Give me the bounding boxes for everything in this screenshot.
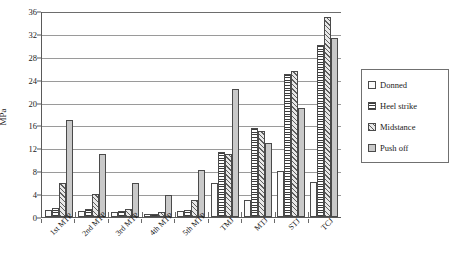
legend-label: Donned [380, 80, 407, 90]
x-axis-tick-mark [308, 219, 309, 223]
y-axis-tick-label: 12 [29, 144, 38, 154]
x-axis-tick-label: TMJ [219, 216, 236, 233]
x-axis-label-cell: TCJ [308, 219, 341, 266]
bar [265, 143, 272, 217]
x-axis-tick-mark [241, 219, 242, 223]
x-axis-tick-mark [41, 219, 42, 223]
bar-group [241, 12, 274, 217]
x-axis-tick-mark [208, 219, 209, 223]
bar [198, 170, 205, 217]
y-axis-tick-label: 16 [29, 121, 38, 131]
plot-area [41, 12, 341, 218]
legend-item: Midstance [368, 122, 448, 132]
legend-item: Donned [368, 80, 448, 90]
y-axis-tick-label: 20 [29, 99, 38, 109]
bar-group [42, 12, 75, 217]
bar [144, 214, 151, 217]
legend-label: Midstance [380, 122, 415, 132]
legend-swatch-icon [368, 144, 376, 152]
bar-group [175, 12, 208, 217]
bar [111, 212, 118, 217]
bar [211, 183, 218, 217]
x-axis-label-cell: 5th MTP [174, 219, 207, 266]
y-axis: 04812162024283236 [0, 0, 41, 219]
bar-chart: MPa 04812162024283236 1st MTP2nd MTP3rd … [0, 0, 457, 266]
bar-group [208, 12, 241, 217]
x-axis-label-cell: 2nd MTP [74, 219, 107, 266]
bar [99, 154, 106, 217]
x-axis-label-cell: TMJ [208, 219, 241, 266]
y-axis-tick-label: 32 [29, 30, 38, 40]
x-axis-labels: 1st MTP2nd MTP3rd MTP4th MTP5th MTPTMJMT… [41, 219, 341, 266]
x-axis-tick-mark [174, 219, 175, 223]
x-axis-label-cell: 4th MTP [141, 219, 174, 266]
bar [218, 152, 225, 217]
bar [45, 210, 52, 217]
x-axis-tick-label: TCJ [320, 216, 336, 232]
bar [151, 214, 158, 217]
y-axis-tick-label: 24 [29, 76, 38, 86]
bar [251, 128, 258, 217]
x-axis-tick-label: STJ [287, 217, 302, 232]
bar [277, 171, 284, 217]
x-axis-label-cell: MTJ [241, 219, 274, 266]
legend-item: Push off [368, 143, 448, 153]
bar-groups [42, 12, 341, 217]
bar [298, 108, 305, 217]
x-axis-tick-mark [74, 219, 75, 223]
bar-group [275, 12, 308, 217]
bar-group [108, 12, 141, 217]
bar-group [142, 12, 175, 217]
bar [177, 211, 184, 217]
bar-group [308, 12, 341, 217]
legend-swatch-icon [368, 81, 376, 89]
bar [331, 38, 338, 217]
legend-item: Heel strike [368, 101, 448, 111]
x-axis-tick-mark [108, 219, 109, 223]
legend: DonnedHeel strikeMidstancePush off [361, 69, 449, 163]
x-axis-label-cell: 3rd MTP [108, 219, 141, 266]
bar [85, 209, 92, 217]
x-axis-label-cell: 1st MTP [41, 219, 74, 266]
bar [118, 211, 125, 217]
bar [59, 183, 66, 217]
bar [258, 131, 265, 217]
bar [284, 74, 291, 217]
bar [225, 154, 232, 217]
bar [317, 45, 324, 217]
x-axis-tick-mark [274, 219, 275, 223]
bar [52, 208, 59, 217]
bar [324, 17, 331, 217]
x-axis-label-cell: STJ [274, 219, 307, 266]
y-axis-tick-label: 28 [29, 53, 38, 63]
x-axis-tick-mark [141, 219, 142, 223]
legend-label: Push off [380, 143, 408, 153]
bar [78, 211, 85, 217]
legend-swatch-icon [368, 102, 376, 110]
bar-group [75, 12, 108, 217]
x-axis-tick-label: MTJ [252, 216, 269, 233]
y-axis-tick-label: 36 [29, 7, 38, 17]
bar [66, 120, 73, 217]
bar [310, 182, 317, 217]
bar [232, 89, 239, 217]
legend-label: Heel strike [380, 101, 417, 111]
bar [184, 210, 191, 217]
bar [291, 71, 298, 217]
bar [244, 200, 251, 217]
legend-swatch-icon [368, 123, 376, 131]
